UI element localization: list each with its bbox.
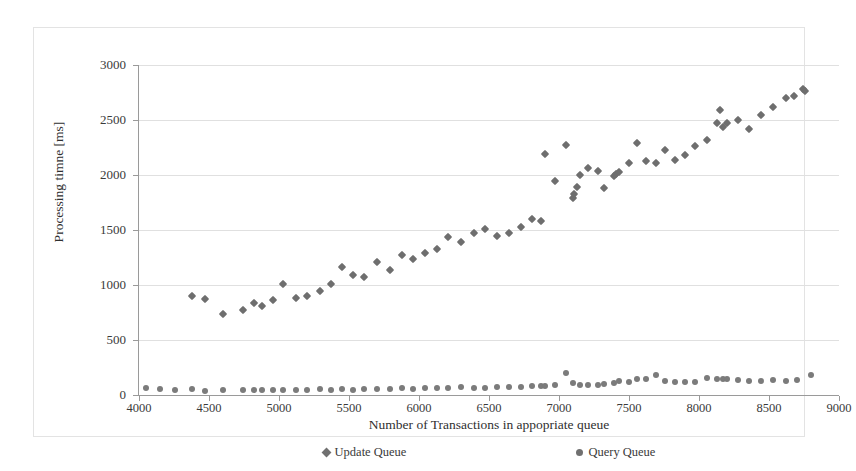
data-point bbox=[350, 387, 356, 393]
data-point bbox=[250, 299, 258, 307]
data-point bbox=[601, 381, 607, 387]
data-point bbox=[482, 385, 488, 391]
data-point bbox=[653, 372, 659, 378]
y-tick-mark-1000 bbox=[133, 285, 138, 286]
data-point bbox=[595, 382, 601, 388]
data-point bbox=[202, 388, 208, 394]
x-tick-label-6500: 6500 bbox=[459, 402, 519, 415]
x-tick-label-7000: 7000 bbox=[529, 402, 589, 415]
data-point bbox=[506, 384, 512, 390]
data-point bbox=[220, 387, 226, 393]
gridline-y-1000 bbox=[139, 285, 839, 286]
data-point bbox=[616, 378, 622, 384]
data-point bbox=[538, 383, 544, 389]
data-point bbox=[537, 217, 545, 225]
y-tick-mark-3000 bbox=[133, 65, 138, 66]
data-point bbox=[756, 111, 764, 119]
data-point bbox=[529, 383, 535, 389]
data-point bbox=[269, 296, 277, 304]
data-point bbox=[471, 385, 477, 391]
data-point bbox=[528, 215, 536, 223]
data-point bbox=[808, 372, 814, 378]
y-axis-line bbox=[138, 65, 139, 396]
data-point bbox=[745, 125, 753, 133]
data-point bbox=[317, 386, 323, 392]
data-point bbox=[494, 384, 500, 390]
chart-frame: Processing timne [ms] 050010001500200025… bbox=[33, 27, 805, 437]
x-tick-label-6000: 6000 bbox=[389, 402, 449, 415]
diamond-marker-icon bbox=[321, 447, 331, 457]
x-tick-label-8500: 8500 bbox=[739, 402, 799, 415]
data-point bbox=[387, 386, 393, 392]
y-tick-label-1500: 1500 bbox=[80, 223, 126, 236]
data-point bbox=[573, 183, 581, 191]
data-point bbox=[642, 156, 650, 164]
data-point bbox=[782, 94, 790, 102]
data-point bbox=[493, 231, 501, 239]
data-point bbox=[798, 85, 806, 93]
data-point bbox=[719, 122, 727, 130]
x-tick-label-5500: 5500 bbox=[319, 402, 379, 415]
data-point bbox=[420, 249, 428, 257]
data-point bbox=[188, 292, 196, 300]
x-tick-label-8000: 8000 bbox=[669, 402, 729, 415]
data-point bbox=[240, 387, 246, 393]
data-point bbox=[328, 387, 334, 393]
data-point bbox=[304, 387, 310, 393]
data-point bbox=[293, 387, 299, 393]
data-point bbox=[361, 386, 367, 392]
data-point bbox=[385, 265, 393, 273]
data-point bbox=[327, 280, 335, 288]
data-point bbox=[189, 386, 195, 392]
data-point bbox=[720, 376, 726, 382]
y-tick-mark-500 bbox=[133, 340, 138, 341]
data-point bbox=[259, 387, 265, 393]
data-point bbox=[609, 172, 617, 180]
data-point bbox=[563, 370, 569, 376]
data-point bbox=[238, 306, 246, 314]
data-point bbox=[458, 384, 464, 390]
data-point bbox=[634, 376, 640, 382]
data-point bbox=[716, 106, 724, 114]
data-point bbox=[349, 270, 357, 278]
data-point bbox=[569, 194, 577, 202]
data-point bbox=[612, 170, 620, 178]
data-point bbox=[374, 386, 380, 392]
gridline-y-2500 bbox=[139, 120, 839, 121]
data-point bbox=[682, 379, 688, 385]
data-point bbox=[611, 380, 617, 386]
data-point bbox=[570, 189, 578, 197]
data-point bbox=[758, 378, 764, 384]
data-point bbox=[562, 141, 570, 149]
data-point bbox=[661, 145, 669, 153]
data-point bbox=[735, 377, 741, 383]
legend-entry-update-queue[interactable]: Update Queue bbox=[323, 445, 407, 460]
legend-entry-query-queue[interactable]: Query Queue bbox=[576, 445, 655, 460]
data-point bbox=[279, 280, 287, 288]
data-point bbox=[338, 263, 346, 271]
data-point bbox=[518, 384, 524, 390]
data-point bbox=[662, 378, 668, 384]
data-point bbox=[339, 386, 345, 392]
x-axis-label: Number of Transactions in appopriate que… bbox=[139, 417, 839, 433]
x-tick-label-4000: 4000 bbox=[109, 402, 169, 415]
data-point bbox=[769, 103, 777, 111]
data-point bbox=[692, 379, 698, 385]
data-point bbox=[633, 139, 641, 147]
data-point bbox=[270, 387, 276, 393]
data-point bbox=[434, 385, 440, 391]
data-point bbox=[703, 136, 711, 144]
data-point bbox=[398, 251, 406, 259]
data-point bbox=[594, 166, 602, 174]
y-tick-mark-2000 bbox=[133, 175, 138, 176]
data-point bbox=[724, 376, 730, 382]
y-tick-label-3000: 3000 bbox=[80, 58, 126, 71]
y-tick-mark-1500 bbox=[133, 230, 138, 231]
data-point bbox=[691, 142, 699, 150]
data-point bbox=[542, 383, 548, 389]
data-point bbox=[671, 155, 679, 163]
chart-legend: Update QueueQuery Queue bbox=[139, 443, 839, 461]
data-point bbox=[409, 255, 417, 263]
data-point bbox=[292, 294, 300, 302]
x-tick-label-9000: 9000 bbox=[809, 402, 856, 415]
